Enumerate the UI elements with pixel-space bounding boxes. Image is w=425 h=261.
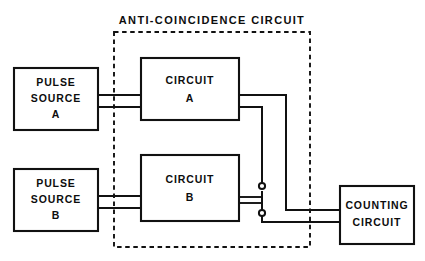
enclosure-title: ANTI-COINCIDENCE CIRCUIT	[119, 14, 305, 26]
wire-circuit-a-to-counting-circuit	[239, 95, 340, 210]
pulse-source-a-label-line1: PULSE	[36, 76, 76, 88]
circuit-a-box	[141, 58, 239, 120]
diagram-canvas: ANTI-COINCIDENCE CIRCUIT PULSE SOU	[0, 0, 425, 261]
pulse-source-a-label-line3: A	[52, 108, 60, 120]
pulse-source-b-label-line1: PULSE	[36, 177, 76, 189]
circuit-b-label-line2: B	[186, 191, 194, 203]
switch-lower-contact-icon[interactable]	[259, 210, 265, 216]
wire-circuit-a-to-switch-upper-contact	[239, 107, 262, 186]
counting-circuit-label-line1: COUNTING	[345, 199, 408, 211]
switch-upper-contact-icon[interactable]	[259, 183, 265, 189]
counting-circuit-label-line2: CIRCUIT	[353, 216, 402, 228]
pulse-source-a-label-line2: SOURCE	[31, 92, 81, 104]
pulse-source-b-label-line3: B	[52, 209, 60, 221]
circuit-a-label-line2: A	[186, 92, 194, 104]
circuit-b-label-line1: CIRCUIT	[166, 173, 215, 185]
pulse-source-b-label-line2: SOURCE	[31, 193, 81, 205]
anti-coincidence-block-diagram: ANTI-COINCIDENCE CIRCUIT PULSE SOU	[0, 0, 425, 261]
circuit-b-box	[141, 155, 239, 221]
circuit-a-label-line1: CIRCUIT	[166, 74, 215, 86]
wire-switch-to-counting-circuit	[262, 213, 340, 222]
